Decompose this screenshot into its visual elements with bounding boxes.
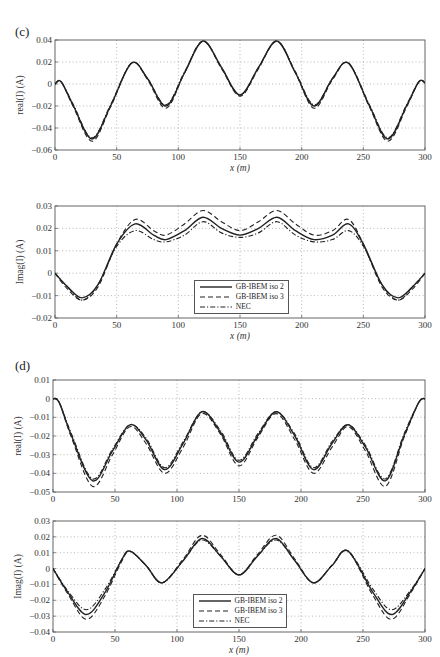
y-tick-label: −0.04 bbox=[29, 627, 50, 637]
legend-swatch-icon bbox=[199, 294, 233, 300]
x-axis-label: x (m) bbox=[228, 645, 249, 656]
legend-swatch-icon bbox=[198, 598, 232, 604]
legend-swatch-icon bbox=[198, 618, 232, 624]
legend-entry: NEC bbox=[199, 302, 284, 312]
legend-label: GB-IBEM iso 3 bbox=[236, 292, 284, 302]
legend-entry: NEC bbox=[198, 616, 283, 626]
x-tick-label: 100 bbox=[170, 634, 184, 644]
plot-d-imag: 0501001502002503000.030.020.010−0.01−0.0… bbox=[0, 0, 440, 657]
legend-swatch-icon bbox=[199, 304, 233, 310]
y-tick-label: −0.02 bbox=[29, 595, 50, 605]
legend: GB-IBEM iso 2GB-IBEM iso 3NEC bbox=[193, 594, 288, 628]
legend-entry: GB-IBEM iso 2 bbox=[198, 596, 283, 606]
legend-entry: GB-IBEM iso 3 bbox=[199, 292, 284, 302]
legend-label: GB-IBEM iso 2 bbox=[235, 596, 283, 606]
legend-swatch-icon bbox=[199, 284, 233, 290]
legend-entry: GB-IBEM iso 3 bbox=[198, 606, 283, 616]
y-axis-label: Imag(I) (A) bbox=[13, 554, 24, 599]
y-tick-label: 0.01 bbox=[34, 548, 50, 558]
y-tick-label: 0 bbox=[46, 564, 51, 574]
x-tick-label: 0 bbox=[51, 634, 56, 644]
legend-label: GB-IBEM iso 3 bbox=[235, 606, 283, 616]
legend-entry: GB-IBEM iso 2 bbox=[199, 282, 284, 292]
legend-label: NEC bbox=[236, 302, 251, 312]
x-tick-label: 50 bbox=[111, 634, 121, 644]
x-tick-label: 200 bbox=[294, 634, 308, 644]
y-tick-label: 0.03 bbox=[34, 516, 50, 526]
y-tick-label: −0.01 bbox=[29, 579, 50, 589]
legend: GB-IBEM iso 2GB-IBEM iso 3NEC bbox=[194, 280, 289, 314]
legend-label: NEC bbox=[235, 616, 250, 626]
x-tick-label: 150 bbox=[232, 634, 246, 644]
y-tick-label: −0.03 bbox=[29, 611, 50, 621]
y-tick-label: 0.02 bbox=[34, 532, 50, 542]
legend-swatch-icon bbox=[198, 608, 232, 614]
legend-label: GB-IBEM iso 2 bbox=[236, 282, 284, 292]
x-tick-label: 250 bbox=[356, 634, 370, 644]
x-tick-label: 300 bbox=[418, 634, 432, 644]
